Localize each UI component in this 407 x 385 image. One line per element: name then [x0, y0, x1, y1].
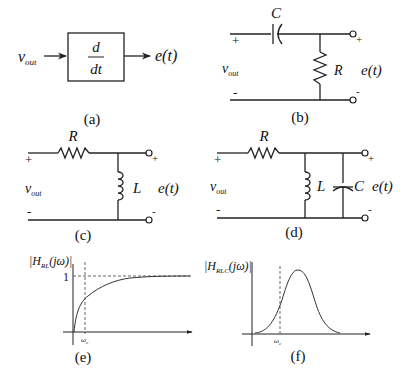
- inductor-coil: [118, 172, 123, 200]
- c-output-label: e(t): [158, 180, 179, 197]
- inductor-coil: [305, 172, 310, 200]
- f-ylabel: |HRLC(jω)|: [204, 259, 252, 275]
- b-minus: -: [233, 85, 237, 100]
- f-xtick: ωc: [274, 337, 282, 346]
- b-label-C: C: [271, 5, 282, 21]
- d-terminal-minus: [362, 215, 368, 221]
- d-input-label: vout: [210, 179, 227, 196]
- c-input-label: vout: [25, 181, 42, 198]
- e-response-curve: [74, 276, 190, 332]
- b-input-label: vout: [222, 61, 239, 78]
- caption-c: (c): [75, 227, 92, 244]
- a-input-label: vout: [18, 48, 37, 67]
- caption-f: (f): [291, 348, 306, 365]
- b-out-plus: +: [356, 33, 362, 45]
- figure-canvas: vout d dt e(t) (a) C + - + - vout R e(t)…: [0, 0, 407, 385]
- caption-b: (b): [291, 109, 309, 126]
- resistor-zigzag: [58, 148, 89, 158]
- panel-e: |HRL(jω)| 1 ωc (e): [29, 254, 192, 366]
- c-minus: -: [27, 204, 31, 219]
- figure-svg: vout d dt e(t) (a) C + - + - vout R e(t)…: [0, 0, 407, 385]
- c-label-R: R: [67, 128, 77, 144]
- d-label-R: R: [258, 128, 268, 144]
- d-plus: +: [214, 152, 221, 167]
- a-output-label: e(t): [155, 47, 177, 65]
- d-label-L: L: [316, 178, 325, 194]
- caption-d: (d): [285, 224, 303, 241]
- e-xtick: ωc: [81, 336, 89, 345]
- f-response-curve: [255, 270, 340, 333]
- resistor-zigzag: [314, 52, 326, 84]
- d-output-label: e(t): [372, 178, 393, 195]
- b-terminal-minus: [350, 97, 356, 103]
- c-out-plus: +: [152, 152, 158, 164]
- caption-a: (a): [84, 111, 101, 128]
- panel-c: R + - + - vout L e(t) (c): [25, 128, 179, 244]
- panel-b: C + - + - vout R e(t) (b): [222, 5, 382, 126]
- e-level-1: 1: [63, 270, 69, 284]
- block-numerator: d: [92, 39, 100, 55]
- panel-d: R + - + - vout L C e(t) (d): [210, 128, 393, 241]
- c-terminal-minus: [146, 217, 152, 223]
- b-out-minus: -: [356, 85, 360, 97]
- b-label-R: R: [333, 63, 343, 78]
- resistor-zigzag: [248, 148, 279, 158]
- caption-e: (e): [75, 349, 92, 366]
- d-label-C: C: [354, 178, 365, 194]
- d-out-plus: +: [368, 152, 374, 164]
- block-denominator: dt: [90, 61, 103, 77]
- e-ylabel: |HRL(jω)|: [29, 254, 72, 270]
- c-out-minus: -: [152, 205, 156, 217]
- c-plus: +: [25, 152, 32, 167]
- b-output-label: e(t): [361, 62, 382, 79]
- panel-a: vout d dt e(t) (a): [18, 33, 177, 128]
- panel-f: |HRLC(jω)| ωc (f): [204, 259, 370, 365]
- d-out-minus: -: [368, 203, 372, 215]
- c-label-L: L: [132, 180, 141, 196]
- b-plus: +: [232, 33, 239, 48]
- d-minus: -: [216, 202, 220, 217]
